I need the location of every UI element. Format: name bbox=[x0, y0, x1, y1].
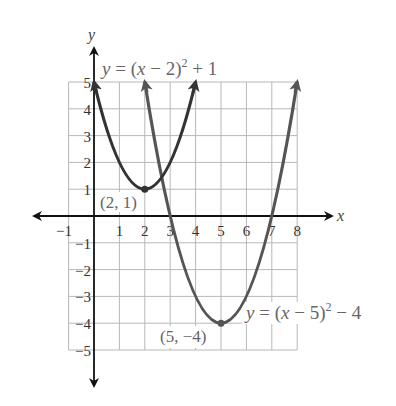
equation-1-label: y = (x − 2)2 + 1 bbox=[100, 56, 217, 80]
y-tick-labels: 5 4 3 2 1 −1 −2 −3 −4 −5 bbox=[75, 75, 91, 359]
vertex-2-point bbox=[218, 320, 225, 327]
svg-text:4: 4 bbox=[192, 223, 200, 239]
x-axis-label: x bbox=[336, 207, 344, 224]
svg-text:−2: −2 bbox=[75, 263, 91, 279]
equation-2-label: y = (x − 5)2 − 4 bbox=[244, 300, 362, 324]
vertex-2-label: (5, −4) bbox=[160, 327, 206, 346]
parabola-graph: x y −1 1 2 3 4 5 6 7 8 5 4 3 2 1 −1 −2 −… bbox=[0, 0, 396, 406]
svg-text:5: 5 bbox=[84, 75, 92, 91]
svg-text:1: 1 bbox=[116, 223, 124, 239]
x-tick-labels: −1 1 2 3 4 5 6 7 8 bbox=[56, 223, 301, 239]
svg-text:8: 8 bbox=[293, 223, 301, 239]
y-axis-label: y bbox=[86, 26, 96, 44]
svg-text:5: 5 bbox=[217, 223, 225, 239]
svg-text:2: 2 bbox=[141, 223, 149, 239]
svg-text:−3: −3 bbox=[75, 289, 91, 305]
svg-text:−4: −4 bbox=[75, 316, 91, 332]
svg-text:−1: −1 bbox=[75, 236, 91, 252]
svg-text:3: 3 bbox=[84, 129, 92, 145]
vertex-1-point bbox=[141, 186, 148, 193]
svg-text:2: 2 bbox=[84, 155, 92, 171]
svg-text:−1: −1 bbox=[56, 223, 72, 239]
svg-text:6: 6 bbox=[243, 223, 251, 239]
vertex-1-label: (2, 1) bbox=[100, 193, 137, 212]
svg-text:4: 4 bbox=[84, 102, 92, 118]
svg-text:−5: −5 bbox=[75, 343, 91, 359]
svg-text:1: 1 bbox=[84, 182, 92, 198]
